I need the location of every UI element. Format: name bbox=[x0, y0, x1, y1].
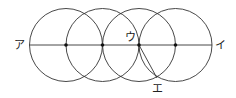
label-e: エ bbox=[152, 82, 163, 95]
segment-u-e bbox=[139, 45, 157, 78]
label-i: イ bbox=[215, 39, 226, 52]
center-point-3 bbox=[137, 43, 141, 47]
geometry-diagram: ア イ ウ エ bbox=[0, 0, 236, 98]
label-u: ウ bbox=[125, 31, 136, 44]
center-point-2 bbox=[101, 43, 105, 47]
center-point-1 bbox=[64, 43, 68, 47]
center-point-4 bbox=[174, 43, 178, 47]
label-a: ア bbox=[14, 39, 25, 52]
